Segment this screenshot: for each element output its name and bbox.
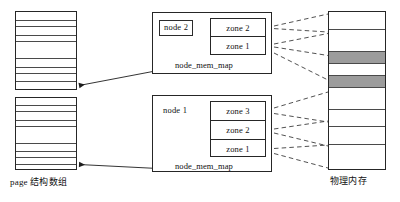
page-array-cell <box>16 112 76 121</box>
physical-memory-cell <box>329 145 385 169</box>
zone-cell-node2-zone2[interactable]: zone 2 <box>211 19 265 37</box>
physical-memory-cell <box>329 12 385 30</box>
node-2-zone-stack: zone 2 zone 1 <box>210 18 266 55</box>
page-array-cell <box>16 82 76 89</box>
dashed-links-node1 <box>274 92 328 168</box>
physical-memory-cell <box>329 127 385 145</box>
dashed-links-node2 <box>274 14 328 80</box>
page-array-cell <box>16 27 76 36</box>
node-1-label: node 1 <box>160 104 190 118</box>
zone-cell-node1-zone3[interactable]: zone 3 <box>211 102 265 121</box>
node-1-zone-stack: zone 3 zone 2 zone 1 <box>210 101 266 157</box>
node-1-container[interactable]: node 1 zone 3 zone 2 zone 1 node_mem_map <box>152 95 272 172</box>
physical-memory-cell <box>329 64 385 76</box>
physical-memory-cell <box>329 88 385 110</box>
page-array-cell <box>16 144 76 152</box>
physical-memory-cell-shaded <box>329 76 385 88</box>
page-array-cell <box>16 127 76 144</box>
page-structure-array-bottom <box>15 97 77 170</box>
page-array-cell <box>16 165 76 171</box>
numa-memory-diagram: page 结构数组 node 2 zone 2 zone 1 node_mem_… <box>0 0 400 202</box>
zone-cell-node1-zone2[interactable]: zone 2 <box>211 121 265 140</box>
page-array-caption: page 结构数组 <box>10 178 67 187</box>
page-array-cell <box>16 74 76 82</box>
page-array-cell <box>16 59 76 68</box>
page-array-cell <box>16 158 76 165</box>
zone-cell-node1-zone1[interactable]: zone 1 <box>211 140 265 157</box>
page-structure-array-top <box>15 11 77 90</box>
physical-memory-cell <box>329 30 385 52</box>
physical-memory-cell <box>329 110 385 127</box>
zone-cell-node2-zone1[interactable]: zone 1 <box>211 37 265 54</box>
node-2-mem-map-label: node_mem_map <box>175 61 233 70</box>
physical-memory-caption: 物理内存 <box>330 177 367 186</box>
node-2-container[interactable]: node 2 zone 2 zone 1 node_mem_map <box>152 12 272 74</box>
page-array-cell <box>16 42 76 59</box>
node-1-mem-map-label: node_mem_map <box>175 162 233 171</box>
page-array-cell <box>16 98 76 106</box>
physical-memory-cell-shaded <box>329 52 385 64</box>
physical-memory-column <box>328 11 386 170</box>
page-array-cell <box>16 12 76 21</box>
node-2-label: node 2 <box>159 20 193 36</box>
